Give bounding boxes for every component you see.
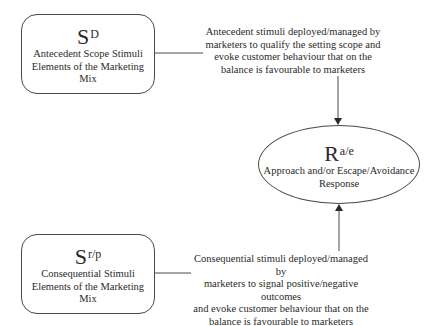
consequential-symbol: Sr/p: [75, 246, 102, 268]
antecedent-label-1: Antecedent Scope Stimuli: [33, 48, 143, 61]
note-line: Consequential stimuli deployed/managed b…: [189, 253, 373, 278]
response-label-2: Response: [319, 178, 359, 191]
response-ellipse: Ra/e Approach and/or Escape/Avoidance Re…: [258, 125, 420, 204]
antecedent-stimuli-box: SD Antecedent Scope Stimuli Elements of …: [21, 14, 155, 94]
antecedent-label-2: Elements of the Marketing Mix: [22, 61, 154, 86]
response-label-1: Approach and/or Escape/Avoidance: [264, 165, 415, 178]
symbol-superscript: a/e: [340, 144, 354, 158]
note-line: balance is favourable to marketers: [203, 64, 383, 77]
note-line: marketers to qualify the setting scope a…: [203, 39, 383, 52]
consequential-label-1: Consequential Stimuli: [41, 268, 135, 281]
consequential-note: Consequential stimuli deployed/managed b…: [189, 253, 373, 326]
antecedent-note: Antecedent stimuli deployed/managed by m…: [203, 26, 383, 76]
note-line: marketers to signal positive/negative ou…: [189, 278, 373, 303]
note-line: evoke customer behaviour that on the: [203, 51, 383, 64]
note-line: Antecedent stimuli deployed/managed by: [203, 26, 383, 39]
symbol-letter: R: [324, 141, 339, 166]
antecedent-symbol: SD: [77, 26, 99, 48]
symbol-superscript: r/p: [88, 247, 101, 261]
response-symbol: Ra/e: [324, 143, 354, 165]
consequential-stimuli-box: Sr/p Consequential Stimuli Elements of t…: [21, 234, 155, 314]
note-line: and evoke customer behaviour that on the: [189, 303, 373, 316]
symbol-letter: S: [77, 24, 89, 49]
note-line: balance is favourable to marketers: [189, 316, 373, 326]
symbol-letter: S: [75, 244, 87, 269]
consequential-label-2: Elements of the Marketing Mix: [22, 281, 154, 306]
symbol-superscript: D: [90, 27, 99, 41]
